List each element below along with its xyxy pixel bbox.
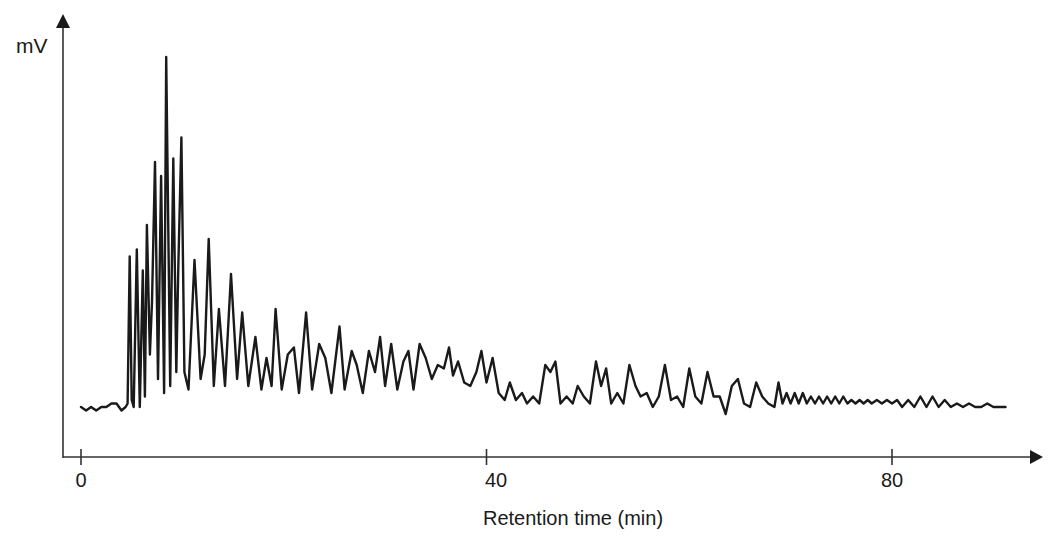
x-tick-label-0: 0: [75, 469, 86, 492]
x-tick-label-80: 80: [881, 469, 903, 492]
chromatogram-trace: [81, 57, 1006, 414]
x-axis-arrow-icon: [1030, 450, 1043, 464]
x-tick-label-40: 40: [485, 469, 507, 492]
x-axis-label: Retention time (min): [483, 507, 663, 530]
chromatogram-chart: [0, 0, 1059, 544]
y-axis-arrow-icon: [56, 14, 70, 28]
y-axis-label: mV: [16, 34, 48, 58]
